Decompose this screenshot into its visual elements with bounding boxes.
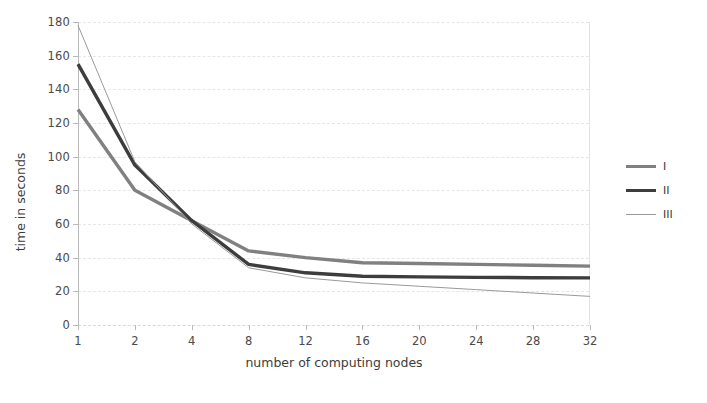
x-tick-label: 20	[412, 334, 427, 348]
x-tick-label: 2	[131, 334, 138, 348]
legend-label: III	[663, 209, 673, 220]
series-line-I	[78, 110, 590, 267]
legend-label: II	[663, 185, 670, 196]
y-axis-title: time in seconds	[13, 152, 28, 251]
series-line-III	[78, 25, 590, 296]
x-tick-label: 32	[583, 334, 598, 348]
legend-item-III[interactable]: III	[626, 209, 673, 220]
legend-swatch-icon	[626, 214, 656, 215]
legend-swatch-icon	[626, 189, 656, 192]
chart-legend: IIIIII	[626, 161, 673, 220]
x-tick	[78, 325, 79, 330]
y-tick-label: 120	[47, 116, 70, 130]
x-tick	[192, 325, 193, 330]
x-tick	[476, 325, 477, 330]
legend-item-II[interactable]: II	[626, 185, 673, 196]
y-tick-label: 20	[55, 284, 70, 298]
x-tick	[533, 325, 534, 330]
x-tick-label: 28	[526, 334, 541, 348]
x-tick-label: 4	[188, 334, 195, 348]
series-lines	[78, 22, 590, 325]
y-tick-label: 60	[55, 217, 70, 231]
x-tick	[362, 325, 363, 330]
chart-figure: time in seconds 020406080100120140160180…	[0, 0, 707, 403]
legend-label: I	[663, 161, 666, 172]
x-tick	[590, 325, 591, 330]
y-tick-label: 100	[47, 150, 70, 164]
y-tick-label: 0	[62, 318, 70, 332]
x-tick-label: 24	[469, 334, 484, 348]
x-tick-label: 16	[355, 334, 370, 348]
y-tick-label: 180	[47, 15, 70, 29]
x-tick-label: 12	[298, 334, 313, 348]
y-tick-label: 160	[47, 49, 70, 63]
y-tick-label: 140	[47, 82, 70, 96]
plot-area: 020406080100120140160180 124812162024283…	[78, 22, 590, 325]
x-tick	[135, 325, 136, 330]
gridline	[78, 325, 589, 326]
x-tick	[306, 325, 307, 330]
y-tick-label: 40	[55, 251, 70, 265]
x-tick	[249, 325, 250, 330]
series-line-II	[78, 64, 590, 278]
x-tick-label: 1	[74, 334, 81, 348]
y-tick-label: 80	[55, 183, 70, 197]
legend-swatch-icon	[626, 165, 656, 168]
legend-item-I[interactable]: I	[626, 161, 673, 172]
x-tick	[419, 325, 420, 330]
x-tick-label: 8	[245, 334, 252, 348]
plot-wrapper: 020406080100120140160180 124812162024283…	[78, 22, 590, 325]
x-axis-title: number of computing nodes	[78, 355, 590, 370]
